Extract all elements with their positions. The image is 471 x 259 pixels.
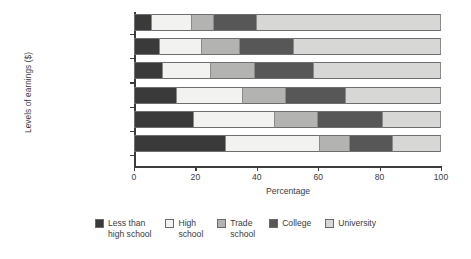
bar-segment bbox=[214, 14, 257, 31]
bar-segment bbox=[346, 87, 441, 104]
legend-label: High school bbox=[178, 218, 203, 239]
y-axis-title: Levels of earnings ($) bbox=[24, 23, 33, 163]
x-tick-mark bbox=[134, 166, 135, 171]
bar-segment bbox=[255, 62, 313, 79]
legend-item: Less than high school bbox=[95, 218, 151, 239]
x-tick-mark bbox=[441, 166, 442, 171]
bar-segment bbox=[134, 87, 177, 104]
legend-label: University bbox=[338, 218, 376, 229]
x-tick-mark bbox=[380, 166, 381, 171]
bar-segment bbox=[275, 111, 318, 128]
x-tick-mark bbox=[318, 166, 319, 171]
legend-label: College bbox=[282, 218, 311, 229]
plot-area bbox=[134, 13, 441, 164]
bar-segment bbox=[163, 62, 211, 79]
bar-segment bbox=[294, 38, 441, 55]
stacked-bar-chart: Levels of earnings ($) 020406080100 100 … bbox=[0, 0, 471, 259]
bar-row bbox=[134, 111, 441, 128]
legend-label: Trade school bbox=[230, 218, 255, 239]
x-tick-label: 20 bbox=[191, 172, 201, 182]
legend-item: High school bbox=[165, 218, 203, 239]
bar-segment bbox=[134, 111, 194, 128]
bar-row bbox=[134, 87, 441, 104]
x-tick-label: 0 bbox=[132, 172, 137, 182]
chart-legend: Less than high schoolHigh schoolTrade sc… bbox=[0, 218, 471, 239]
bar-row bbox=[134, 38, 441, 55]
bar-segment bbox=[243, 87, 286, 104]
bar-segment bbox=[134, 135, 226, 152]
bar-segment bbox=[286, 87, 346, 104]
bar-row bbox=[134, 14, 441, 31]
bar-segment bbox=[194, 111, 275, 128]
bar-segment bbox=[202, 38, 240, 55]
bar-segment bbox=[134, 62, 163, 79]
bar-segment bbox=[160, 38, 201, 55]
x-tick-label: 100 bbox=[434, 172, 448, 182]
bar-segment bbox=[318, 111, 382, 128]
bar-segment bbox=[226, 135, 320, 152]
legend-swatch-icon bbox=[217, 219, 226, 228]
bar-segment bbox=[177, 87, 243, 104]
x-tick-label: 80 bbox=[375, 172, 385, 182]
bar-segment bbox=[240, 38, 294, 55]
x-tick-label: 60 bbox=[313, 172, 323, 182]
bar-segment bbox=[393, 135, 441, 152]
x-axis-title: Percentage bbox=[134, 186, 442, 196]
bar-row bbox=[134, 62, 441, 79]
legend-item: Trade school bbox=[217, 218, 255, 239]
bar-segment bbox=[192, 14, 213, 31]
legend-swatch-icon bbox=[325, 219, 334, 228]
x-axis-line bbox=[134, 166, 442, 168]
x-tick-mark bbox=[195, 166, 196, 171]
bar-segment bbox=[383, 111, 441, 128]
bar-segment bbox=[314, 62, 441, 79]
bar-segment bbox=[211, 62, 256, 79]
x-tick-mark bbox=[257, 166, 258, 171]
x-tick-label: 40 bbox=[252, 172, 262, 182]
legend-label: Less than high school bbox=[108, 218, 151, 239]
bar-segment bbox=[134, 14, 152, 31]
bar-segment bbox=[350, 135, 393, 152]
legend-item: University bbox=[325, 218, 376, 229]
bar-segment bbox=[320, 135, 351, 152]
legend-swatch-icon bbox=[269, 219, 278, 228]
bar-row bbox=[134, 135, 441, 152]
legend-swatch-icon bbox=[165, 219, 174, 228]
bar-segment bbox=[152, 14, 192, 31]
bar-segment bbox=[134, 38, 160, 55]
legend-item: College bbox=[269, 218, 311, 229]
legend-swatch-icon bbox=[95, 219, 104, 228]
bar-segment bbox=[257, 14, 441, 31]
